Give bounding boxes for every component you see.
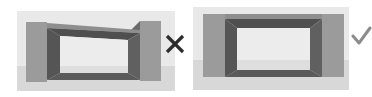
check-icon bbox=[351, 25, 372, 46]
square-frame-drawing bbox=[186, 0, 372, 97]
cross-icon bbox=[164, 33, 186, 55]
correct-frame-illustration bbox=[186, 0, 372, 97]
skewed-frame-drawing bbox=[0, 0, 186, 97]
incorrect-frame-illustration bbox=[0, 0, 186, 97]
